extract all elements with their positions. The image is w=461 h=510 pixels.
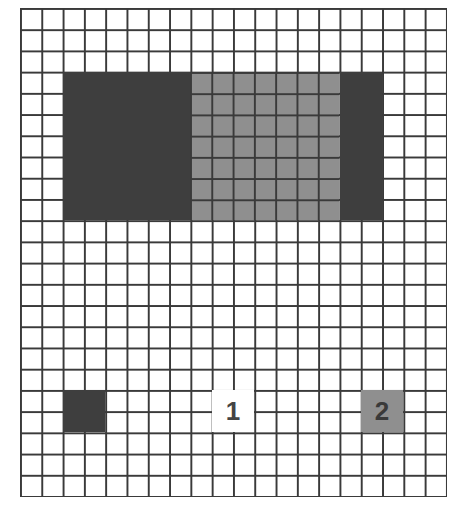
grid-board: 1 2 xyxy=(20,8,447,497)
right-dark-strip xyxy=(340,72,383,221)
big-gray-block xyxy=(190,72,339,221)
label-two-text: 2 xyxy=(361,390,404,432)
small-dark-square xyxy=(63,390,106,432)
big-dark-block xyxy=(63,72,191,221)
small-gray-square-2: 2 xyxy=(361,390,404,432)
label-one-text: 1 xyxy=(212,390,255,432)
label-box-1: 1 xyxy=(212,390,255,432)
